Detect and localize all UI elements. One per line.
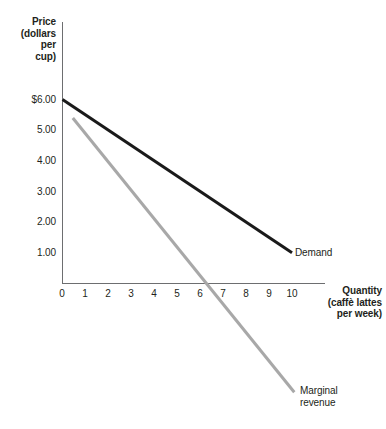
marginal-revenue-series-label: Marginal revenue [300, 385, 338, 408]
marginal-revenue-line [73, 118, 294, 392]
demand-marginal-revenue-chart: Price (dollars per cup) Quantity (caffè … [0, 0, 386, 429]
demand-series-label: Demand [295, 247, 332, 259]
plot-area [0, 0, 386, 429]
demand-line [63, 100, 293, 253]
